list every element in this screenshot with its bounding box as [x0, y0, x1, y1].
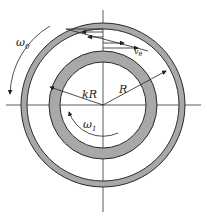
inner-radius-label: kR [82, 88, 97, 101]
couette-diagram: ω0 ω1 vθ kR R [0, 0, 207, 217]
outer-radius-label: R [118, 83, 127, 96]
velocity-label: vθ [134, 47, 143, 57]
omega-outer-label: ω0 [16, 36, 30, 51]
omega-inner-label: ω1 [83, 118, 96, 133]
